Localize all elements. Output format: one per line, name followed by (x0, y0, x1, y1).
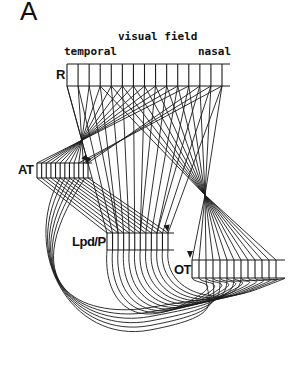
structure-bars (37, 64, 285, 278)
fiber-projections (37, 86, 285, 332)
projection-diagram (0, 0, 302, 376)
